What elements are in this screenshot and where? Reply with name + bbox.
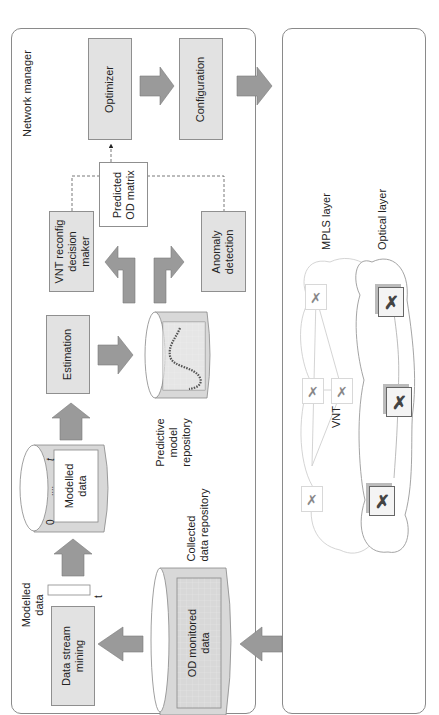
vnt-reconfig-line1: VNT reconfig [52,220,65,284]
data-stream-line2: mining [73,626,86,686]
arrow-network-to-repo [240,627,282,661]
mpls-router-icon: ✗ [331,378,353,404]
data-stream-line1: Data stream [60,626,73,686]
modelled-data-line2: data [76,464,89,509]
optimizer-label: Optimizer [104,65,117,112]
anomaly-detection-box: Anomaly detection [201,211,246,292]
arrow-repo-to-mining [98,627,143,661]
vnt-reconfig-line3: maker [78,220,91,284]
estimation-box: Estimation [46,315,90,394]
modelled-axis-end: t [44,458,57,461]
predictive-repo-line3: repository [180,418,193,466]
modelled-output-line1: Modelled [20,583,33,628]
predictive-repo-line1: Predictive [154,418,167,466]
modelled-data-output-label: Modelled data [18,580,48,630]
collected-title-line1: Collected [185,489,198,562]
predicted-od-line2: OD matrix [124,170,137,220]
modelled-output-t: t [92,595,105,598]
arrow-optimizer-to-configuration [140,67,174,105]
vnt-reconfig-box: VNT reconfig decision maker [49,211,94,292]
od-monitored-line1: OD monitored [186,609,199,677]
collected-title-line2: data repository [198,489,211,562]
predictive-repo-line2: model [167,418,180,466]
mpls-router-icon: ✗ [301,486,323,512]
predictive-repository-cylinder [145,312,210,398]
configuration-box: Configuration [179,38,223,140]
anomaly-line1: Anomaly [211,229,224,274]
optical-switch-icon: ✗ [378,287,404,317]
arrow-mining-to-modelled [54,539,92,576]
dashed-connectors [72,146,224,211]
configuration-label: Configuration [195,56,208,121]
vnt-reconfig-line2: decision [65,220,78,284]
anomaly-line2: detection [224,229,237,274]
collected-repo-title: Collected data repository [180,490,216,560]
modelled-data-content: Modelled data [54,450,98,522]
predicted-od-line1: Predicted [111,170,124,220]
modelled-output-line2: data [33,583,46,628]
optical-switch-icon: ✗ [386,387,412,417]
od-monitored-line2: data [199,609,212,677]
modelled-axis-start: 0 [44,519,57,525]
optical-switch-icon: ✗ [369,486,395,516]
estimation-label: Estimation [62,329,75,380]
modelled-data-strip [48,585,90,595]
arrow-estimation-to-repository [98,336,133,374]
collected-repo-content: OD monitored data [177,578,221,708]
arrow-modelled-to-estimation [52,403,90,440]
vnt-label: VNT [330,406,343,428]
mpls-router-icon: ✗ [305,284,327,310]
predicted-od-matrix-box: Predicted OD matrix [99,162,148,227]
data-stream-mining-box: Data stream mining [51,606,95,706]
optical-layer-label: Optical layer [376,189,389,250]
mpls-router-icon: ✗ [302,378,324,404]
predictive-repo-label: Predictive model repository [153,412,193,472]
arrow-configuration-to-network [237,67,272,105]
mpls-layer-label: MPLS layer [320,193,333,250]
modelled-data-line1: Modelled [63,464,76,509]
split-arrow [105,246,184,303]
optimizer-box: Optimizer [88,38,132,140]
modelled-axis-dots: .... [44,486,57,496]
